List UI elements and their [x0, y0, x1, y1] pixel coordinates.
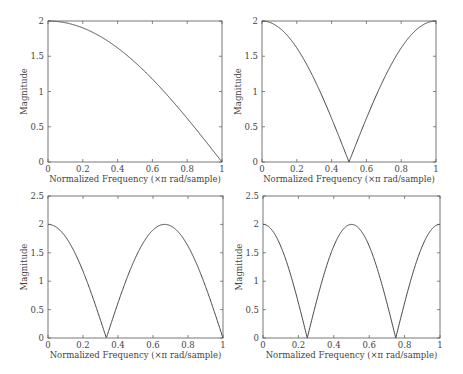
- x-tick-label: 0: [45, 164, 50, 174]
- y-tick-label: 0: [39, 157, 44, 167]
- x-tick-label: 0.6: [146, 340, 160, 350]
- y-tick-label: 2.5: [30, 191, 44, 201]
- magnitude-curve: [48, 21, 222, 162]
- y-axis-label: Magnitude: [19, 68, 29, 115]
- x-tick-label: 0.4: [111, 340, 125, 350]
- y-tick-label: 1.5: [30, 248, 44, 258]
- y-tick-label: 1.5: [30, 51, 44, 61]
- x-tick-label: 0.6: [360, 164, 374, 174]
- x-tick-label: 0.8: [398, 340, 412, 350]
- y-tick-label: 1.5: [245, 248, 259, 258]
- x-tick-label: 0.4: [111, 164, 125, 174]
- subplot-bottom-right: 00.20.40.60.8100.511.522.5Normalized Fre…: [234, 191, 443, 360]
- y-axis-label: Magnitude: [233, 68, 243, 115]
- y-tick-label: 1.5: [244, 51, 258, 61]
- x-tick-label: 0: [260, 340, 265, 350]
- y-tick-label: 1: [253, 87, 258, 97]
- y-tick-label: 2: [39, 219, 44, 229]
- y-tick-label: 0.5: [30, 305, 44, 315]
- y-tick-label: 0.5: [244, 122, 258, 132]
- x-tick-label: 0.2: [292, 340, 306, 350]
- magnitude-curve: [262, 21, 436, 162]
- subplot-top-left: 00.20.40.60.8100.511.52Normalized Freque…: [19, 16, 225, 184]
- y-tick-label: 2: [253, 16, 258, 26]
- x-tick-label: 1: [220, 340, 225, 350]
- x-tick-label: 1: [219, 164, 224, 174]
- x-tick-label: 0.8: [180, 164, 194, 174]
- y-tick-label: 2: [254, 219, 259, 229]
- x-tick-label: 0.8: [181, 340, 195, 350]
- x-tick-label: 1: [437, 340, 442, 350]
- y-tick-label: 1: [254, 276, 259, 286]
- axes-box: [263, 196, 440, 338]
- magnitude-curve: [263, 224, 440, 338]
- x-tick-label: 0.2: [76, 164, 90, 174]
- y-tick-label: 2.5: [245, 191, 259, 201]
- x-tick-label: 0.6: [146, 164, 160, 174]
- y-tick-label: 2: [39, 16, 44, 26]
- x-axis-label: Normalized Frequency (×π rad/sample): [50, 350, 222, 360]
- x-tick-label: 1: [433, 164, 438, 174]
- y-axis-label: Magnitude: [234, 244, 244, 291]
- x-tick-label: 0.8: [394, 164, 408, 174]
- y-tick-label: 1: [39, 87, 44, 97]
- y-tick-label: 1: [39, 276, 44, 286]
- magnitude-curve: [48, 224, 223, 338]
- x-tick-label: 0.2: [290, 164, 304, 174]
- y-tick-label: 0: [39, 333, 44, 343]
- y-tick-label: 0.5: [245, 305, 259, 315]
- y-tick-label: 0.5: [30, 122, 44, 132]
- x-axis-label: Normalized Frequency (×π rad/sample): [49, 174, 221, 184]
- y-axis-label: Magnitude: [19, 244, 29, 291]
- x-tick-label: 0.6: [362, 340, 376, 350]
- axes-box: [48, 21, 222, 162]
- x-tick-label: 0: [259, 164, 264, 174]
- y-tick-label: 0: [253, 157, 258, 167]
- x-axis-label: Normalized Frequency (×π rad/sample): [266, 350, 438, 360]
- x-tick-label: 0.4: [327, 340, 341, 350]
- axes-box: [262, 21, 436, 162]
- x-tick-label: 0: [45, 340, 50, 350]
- x-axis-label: Normalized Frequency (×π rad/sample): [263, 174, 435, 184]
- axes-box: [48, 196, 223, 338]
- subplot-bottom-left: 00.20.40.60.8100.511.522.5Normalized Fre…: [19, 191, 226, 360]
- figure: 00.20.40.60.8100.511.52Normalized Freque…: [0, 0, 463, 374]
- y-tick-label: 0: [254, 333, 259, 343]
- x-tick-label: 0.2: [76, 340, 90, 350]
- x-tick-label: 0.4: [325, 164, 339, 174]
- subplot-top-right: 00.20.40.60.8100.511.52Normalized Freque…: [233, 16, 439, 184]
